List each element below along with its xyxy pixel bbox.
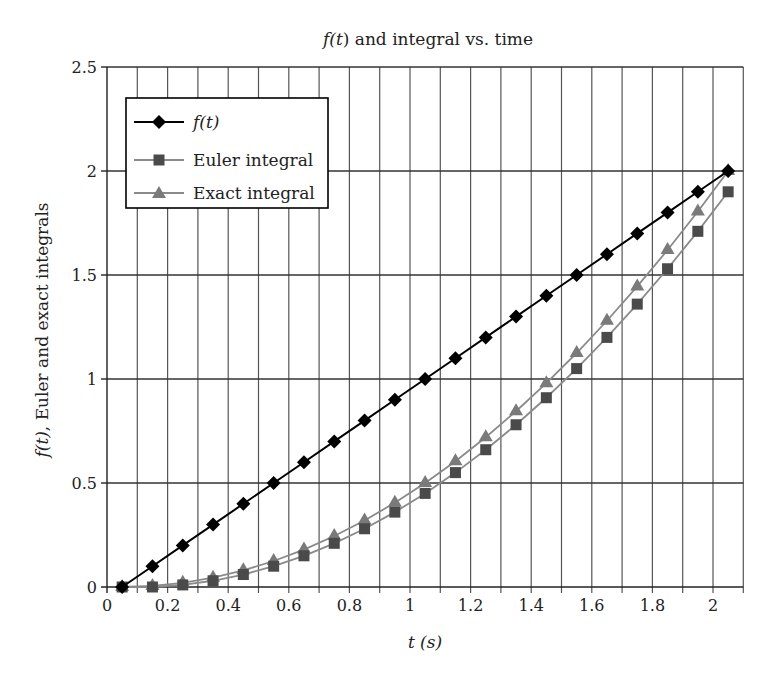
data-point	[418, 475, 432, 487]
legend-label: Exact integral	[193, 183, 315, 203]
x-tick-label: 0	[102, 596, 112, 615]
data-point	[509, 403, 523, 415]
data-point	[721, 164, 735, 178]
data-point	[632, 299, 643, 310]
square-marker-icon	[154, 155, 165, 166]
x-tick-label: 0.6	[276, 596, 301, 615]
data-point	[418, 372, 432, 386]
x-tick-label: 2	[708, 596, 718, 615]
data-point	[571, 363, 582, 374]
data-point	[206, 518, 220, 532]
data-point	[600, 247, 614, 261]
data-point	[479, 429, 493, 441]
legend-label: Euler integral	[193, 150, 313, 170]
x-tick-label: 1.6	[579, 596, 604, 615]
data-point	[236, 497, 250, 511]
data-point	[329, 538, 340, 549]
data-point	[359, 523, 370, 534]
x-axis-title: t (s)	[408, 632, 442, 652]
data-point	[450, 467, 461, 478]
data-point	[358, 414, 372, 428]
y-tick-label: 2	[87, 162, 97, 181]
data-point	[298, 550, 309, 561]
x-tick-label: 1.2	[458, 596, 483, 615]
data-point	[630, 226, 644, 240]
chart: f(t) and integral vs. time 00.20.40.60.8…	[0, 0, 775, 678]
data-point	[723, 186, 734, 197]
data-point	[479, 330, 493, 344]
y-tick-label: 1	[87, 370, 97, 389]
data-point	[327, 434, 341, 448]
x-tick-label: 1.4	[518, 596, 543, 615]
series-euler-integral	[117, 186, 734, 592]
data-point	[388, 393, 402, 407]
data-point	[570, 268, 584, 282]
data-point	[268, 561, 279, 572]
data-point	[297, 455, 311, 469]
x-tick-label: 1.8	[640, 596, 665, 615]
data-point	[661, 206, 675, 220]
data-point	[448, 351, 462, 365]
data-point	[147, 582, 158, 593]
data-point	[176, 538, 190, 552]
data-point	[388, 495, 402, 507]
data-point	[208, 575, 219, 586]
data-point	[267, 476, 281, 490]
y-tick-label: 1.5	[72, 266, 97, 285]
y-tick-label: 0.5	[72, 474, 97, 493]
data-point	[662, 263, 673, 274]
data-point	[539, 375, 553, 387]
x-tick-label: 0.8	[337, 596, 362, 615]
data-point	[509, 310, 523, 324]
y-tick-label: 2.5	[72, 58, 97, 77]
legend: f(t) Euler integral Exact integral	[126, 98, 328, 208]
data-point	[177, 579, 188, 590]
x-tick-label: 0.4	[215, 596, 240, 615]
data-point	[539, 289, 553, 303]
legend-label: f(t)	[191, 112, 219, 132]
data-point	[541, 392, 552, 403]
x-tick-label: 1	[405, 596, 415, 615]
data-point	[691, 185, 705, 199]
y-axis-title: f(t), Euler and exact integrals	[32, 202, 52, 459]
chart-title: f(t) and integral vs. time	[321, 29, 533, 49]
data-point	[448, 453, 462, 465]
data-point	[238, 569, 249, 580]
data-point	[420, 488, 431, 499]
data-point	[389, 507, 400, 518]
data-point	[145, 559, 159, 573]
x-tick-label: 0.2	[155, 596, 180, 615]
data-point	[511, 419, 522, 430]
data-point	[692, 226, 703, 237]
data-point	[480, 444, 491, 455]
y-tick-label: 0	[87, 578, 97, 597]
data-point	[601, 332, 612, 343]
